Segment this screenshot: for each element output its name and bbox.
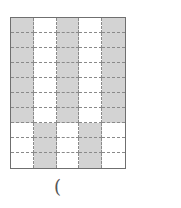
shaded-cell <box>11 78 34 93</box>
shaded-cell <box>57 108 80 123</box>
shaded-cell <box>102 108 125 123</box>
blank-cell <box>11 123 34 138</box>
shaded-cell <box>102 18 125 33</box>
blank-cell <box>34 63 57 78</box>
blank-cell <box>57 153 80 168</box>
blank-cell <box>79 108 102 123</box>
shaded-cell <box>57 48 80 63</box>
shaded-cell <box>57 63 80 78</box>
shaded-cell <box>11 63 34 78</box>
blank-cell <box>102 153 125 168</box>
shaded-cell <box>102 63 125 78</box>
blank-cell <box>79 63 102 78</box>
blank-cell <box>79 93 102 108</box>
blank-cell <box>34 33 57 48</box>
shaded-cell <box>11 93 34 108</box>
shaded-cell <box>102 93 125 108</box>
shaded-cell <box>34 153 57 168</box>
shaded-cell <box>102 33 125 48</box>
shaded-cell <box>57 18 80 33</box>
blank-cell <box>102 123 125 138</box>
blank-cell <box>79 18 102 33</box>
blank-cell <box>79 48 102 63</box>
shaded-cell <box>57 33 80 48</box>
shaded-grid-figure <box>10 17 126 169</box>
shaded-cell <box>79 153 102 168</box>
shaded-cell <box>57 78 80 93</box>
blank-cell <box>11 153 34 168</box>
blank-cell <box>11 138 34 153</box>
shaded-cell <box>11 48 34 63</box>
blank-cell <box>57 123 80 138</box>
blank-cell <box>102 138 125 153</box>
blank-cell <box>57 138 80 153</box>
blank-cell <box>34 108 57 123</box>
shaded-cell <box>57 93 80 108</box>
shaded-cell <box>79 123 102 138</box>
blank-cell <box>34 93 57 108</box>
shaded-cell <box>34 123 57 138</box>
blank-cell <box>34 78 57 93</box>
shaded-cell <box>102 48 125 63</box>
blank-cell <box>79 33 102 48</box>
shaded-cell <box>11 18 34 33</box>
shaded-cell <box>11 108 34 123</box>
blank-cell <box>34 18 57 33</box>
blank-cell <box>79 78 102 93</box>
shaded-cell <box>79 138 102 153</box>
shaded-cell <box>102 78 125 93</box>
answer-blank-parenthesis: ( <box>54 178 61 196</box>
blank-cell <box>34 48 57 63</box>
shaded-cell <box>34 138 57 153</box>
shaded-cell <box>11 33 34 48</box>
